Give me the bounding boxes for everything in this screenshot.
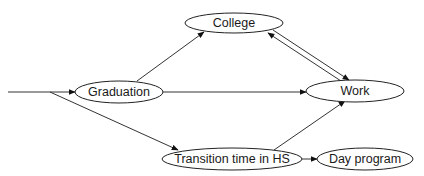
node-graduation[interactable]: Graduation — [75, 81, 163, 103]
transition-label: Transition time in HS — [174, 152, 290, 166]
edge-graduation-to-college — [137, 32, 204, 81]
graduation-label: Graduation — [88, 85, 150, 99]
node-college[interactable]: College — [185, 13, 283, 33]
edge-transition-to-work — [274, 101, 345, 150]
work-label: Work — [341, 84, 371, 98]
edges — [8, 30, 349, 159]
node-transition[interactable]: Transition time in HS — [162, 148, 302, 170]
flow-diagram: Graduation College Work Transition time … — [0, 0, 424, 176]
edge-college-to-work — [273, 30, 349, 80]
edge-work-to-college — [268, 33, 341, 81]
college-label: College — [213, 16, 255, 30]
day-program-label: Day program — [329, 152, 401, 166]
node-work[interactable]: Work — [306, 80, 404, 102]
node-day-program[interactable]: Day program — [317, 148, 413, 170]
